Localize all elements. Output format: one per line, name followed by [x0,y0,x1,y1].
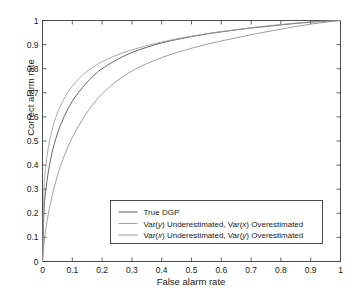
y-tick-label: 0.3 [27,184,39,194]
x-tick-label: 0.1 [66,265,78,275]
chart-legend[interactable]: True DGPVar(y) Underestimated, Var(x) Ov… [111,201,323,244]
x-tick-label: 0.2 [96,265,108,275]
x-tick-label: 0.7 [245,265,257,275]
x-tick-label: 0.5 [186,265,198,275]
legend-label-0: True DGP [144,208,180,217]
legend-label-2: Var(x) Underestimated, Var(y) Overestima… [144,231,304,240]
y-tick-label: 0.1 [27,232,39,242]
chart-canvas: 00.10.20.30.40.50.60.70.80.91 00.10.20.3… [0,0,355,300]
x-tick-label: 0 [40,265,45,275]
x-tick-label: 1 [338,265,343,275]
x-axis-tick-labels: 00.10.20.30.40.50.60.70.80.91 [40,265,343,275]
x-tick-label: 0.4 [156,265,168,275]
x-tick-label: 0.6 [215,265,227,275]
y-axis-label: Correct alarm rate [25,18,36,178]
legend-label-1: Var(y) Underestimated, Var(x) Overestima… [144,220,304,229]
x-axis-label: False alarm rate [42,276,340,287]
y-tick-label: 0 [34,257,39,267]
x-tick-label: 0.9 [305,265,317,275]
y-tick-label: 0.2 [27,208,39,218]
x-tick-label: 0.3 [126,265,138,275]
roc-chart-figure: 00.10.20.30.40.50.60.70.80.91 00.10.20.3… [0,0,355,300]
x-tick-label: 0.8 [275,265,287,275]
